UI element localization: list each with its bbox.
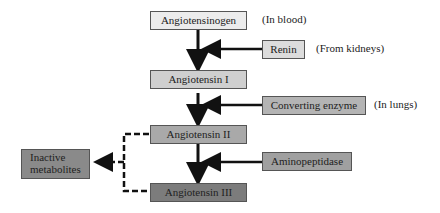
renin-angiotensin-diagram: Angiotensinogen (In blood) Renin (From k… bbox=[0, 0, 440, 213]
aminopeptidase-label: Aminopeptidase bbox=[271, 156, 343, 168]
converting-enzyme-label: Converting enzyme bbox=[271, 100, 357, 112]
renin-label: Renin bbox=[270, 44, 296, 56]
angiotensin-2-label: Angiotensin II bbox=[167, 129, 231, 141]
angiotensin-2-node: Angiotensin II bbox=[150, 125, 247, 144]
inactive-metabolites-node: Inactive metabolites bbox=[21, 149, 90, 179]
inactive-metabolites-label: Inactive metabolites bbox=[30, 152, 89, 175]
angiotensin-1-label: Angiotensin I bbox=[168, 74, 228, 86]
angiotensinogen-label: Angiotensinogen bbox=[161, 15, 236, 27]
angiotensin-3-node: Angiotensin III bbox=[150, 183, 247, 202]
lungs-note: (In lungs) bbox=[374, 98, 417, 110]
kidneys-note: (From kidneys) bbox=[316, 42, 384, 54]
renin-node: Renin bbox=[262, 40, 305, 59]
angiotensin-3-label: Angiotensin III bbox=[165, 187, 233, 199]
aminopeptidase-node: Aminopeptidase bbox=[262, 152, 352, 171]
angiotensinogen-node: Angiotensinogen bbox=[150, 11, 247, 30]
converting-enzyme-node: Converting enzyme bbox=[262, 96, 366, 115]
blood-note: (In blood) bbox=[262, 13, 306, 25]
angiotensin-1-node: Angiotensin I bbox=[150, 70, 247, 89]
